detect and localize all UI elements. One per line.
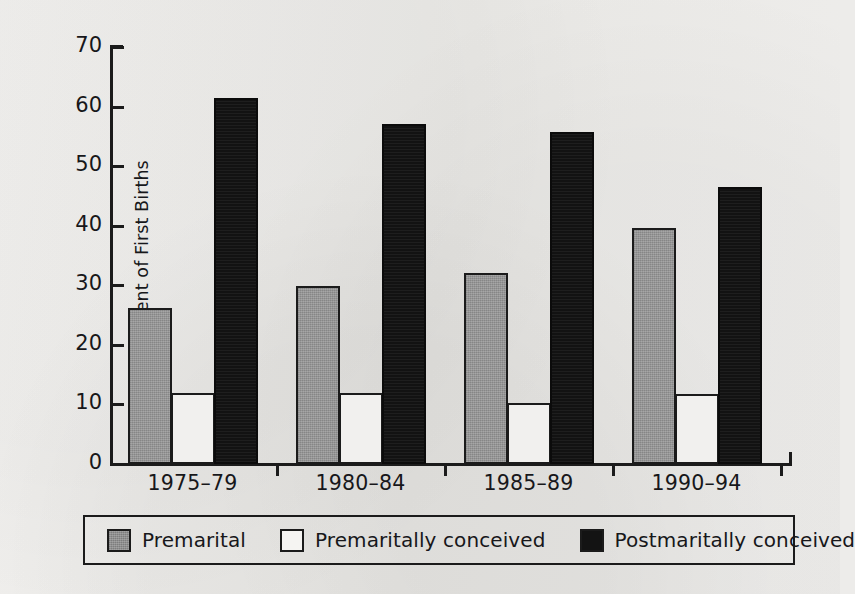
plot-area: Percent of First Births	[110, 47, 790, 464]
y-axis-tick-label: 50	[58, 154, 102, 175]
y-axis-tick-label: 0	[58, 452, 102, 473]
bar-premaritally	[339, 393, 383, 464]
bar-postmaritally	[550, 132, 594, 464]
y-axis-tick-label: 30	[58, 273, 102, 294]
y-axis-tick-label: 20	[58, 333, 102, 354]
legend-item: Premaritally conceived	[280, 528, 546, 552]
legend-item-label: Premarital	[142, 528, 246, 552]
bar-premarital	[296, 286, 340, 464]
bar-premaritally	[171, 393, 215, 464]
black-swatch-icon	[580, 529, 604, 552]
chart-legend: Premarital Premaritally conceived Postma…	[83, 515, 795, 565]
x-axis-group-label: 1990–94	[597, 471, 797, 495]
bar-premarital	[464, 273, 508, 464]
bar-premarital	[128, 308, 172, 464]
bar-premaritally	[675, 394, 719, 464]
gray-swatch-icon	[107, 529, 131, 552]
bar-postmaritally	[382, 124, 426, 464]
bar-postmaritally	[718, 187, 762, 464]
legend-item-label: Postmaritally conceived	[615, 528, 855, 552]
white-swatch-icon	[280, 529, 304, 552]
bar-postmaritally	[214, 98, 258, 464]
y-axis-tick-label: 40	[58, 214, 102, 235]
y-axis-tick-label: 60	[58, 95, 102, 116]
legend-item: Premarital	[107, 528, 246, 552]
y-axis-tick-label: 10	[58, 392, 102, 413]
bar-premaritally	[507, 403, 551, 464]
bar-premarital	[632, 228, 676, 464]
legend-item-label: Premaritally conceived	[315, 528, 546, 552]
legend-item: Postmaritally conceived	[580, 528, 855, 552]
y-axis-tick-label: 70	[58, 35, 102, 56]
